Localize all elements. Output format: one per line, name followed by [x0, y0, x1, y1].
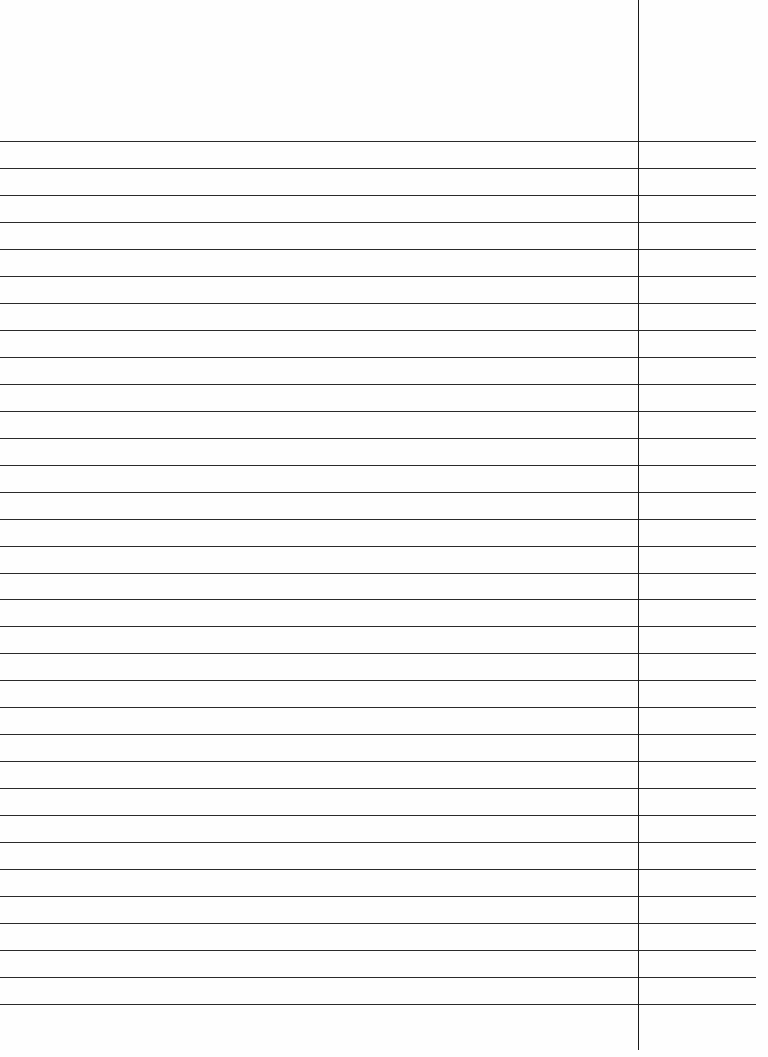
ruled-line: [0, 519, 756, 520]
ruled-line: [0, 249, 756, 250]
margin-line: [638, 0, 639, 1050]
ruled-line: [0, 599, 756, 600]
ruled-line: [0, 626, 756, 627]
ruled-line: [0, 357, 756, 358]
ruled-line: [0, 1004, 756, 1005]
ruled-line: [0, 761, 756, 762]
ruled-line: [0, 842, 756, 843]
ruled-line: [0, 815, 756, 816]
ruled-line: [0, 950, 756, 951]
ruled-line: [0, 680, 756, 681]
ruled-line: [0, 573, 756, 574]
ruled-line: [0, 734, 756, 735]
ruled-line: [0, 492, 756, 493]
ruled-line: [0, 411, 756, 412]
ruled-line: [0, 465, 756, 466]
ruled-line: [0, 977, 756, 978]
ruled-line: [0, 195, 756, 196]
ruled-line: [0, 168, 756, 169]
ruled-line: [0, 546, 756, 547]
ruled-line: [0, 276, 756, 277]
ruled-line: [0, 141, 756, 142]
ruled-line: [0, 896, 756, 897]
ruled-line: [0, 384, 756, 385]
ruled-line: [0, 923, 756, 924]
ruled-line: [0, 438, 756, 439]
ruled-line: [0, 788, 756, 789]
ruled-line: [0, 222, 756, 223]
ruled-paper-sheet: [0, 0, 768, 1057]
ruled-line: [0, 330, 756, 331]
ruled-line: [0, 303, 756, 304]
ruled-line: [0, 869, 756, 870]
ruled-line: [0, 707, 756, 708]
ruled-line: [0, 653, 756, 654]
